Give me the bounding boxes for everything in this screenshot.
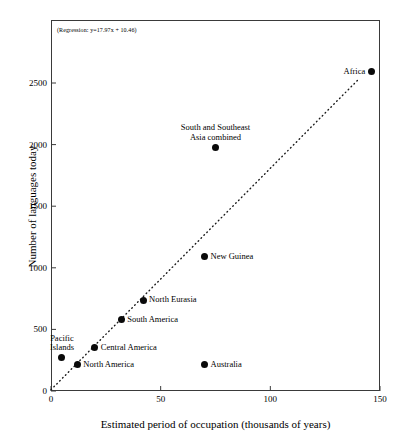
data-point-label: Australia	[211, 360, 242, 370]
y-axis-title: Number of languages today	[26, 92, 39, 322]
x-tick-label: 0	[36, 395, 66, 404]
data-point-label: South and SoutheastAsia combined	[181, 123, 250, 142]
x-axis-title: Estimated period of occupation (thousand…	[51, 418, 380, 431]
data-point-marker	[140, 297, 147, 304]
plot-area-frame	[51, 20, 380, 391]
x-tick-label: 50	[146, 395, 176, 404]
data-point-label: North America	[83, 360, 134, 370]
data-point-marker	[74, 361, 81, 368]
data-point-label: Central America	[101, 343, 157, 353]
data-point-marker	[212, 144, 219, 151]
y-tick-label: 2500	[15, 79, 47, 88]
x-tick-label: 150	[365, 395, 395, 404]
data-point-label: Africa	[344, 67, 366, 77]
data-point-label: South America	[127, 315, 178, 325]
data-point-marker	[118, 316, 125, 323]
data-point-marker	[201, 361, 208, 368]
x-tick-label: 100	[255, 395, 285, 404]
regression-annotation: (Regression: y=17.97x + 10.46)	[57, 26, 137, 34]
scatter-chart-figure: (Regression: y=17.97x + 10.46) 050010001…	[0, 0, 402, 443]
data-point-label: PacificIslands	[50, 334, 74, 353]
data-point-label: New Guinea	[211, 252, 254, 262]
y-tick-label: 500	[15, 325, 47, 334]
data-point-label: North Eurasia	[149, 296, 196, 306]
